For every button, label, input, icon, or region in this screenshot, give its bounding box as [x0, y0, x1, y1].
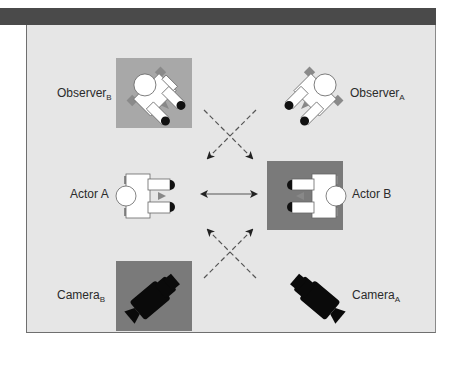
label-actor-b: Actor B	[352, 187, 391, 201]
dashed-arrow-observer-b-to-actor-b	[204, 110, 252, 158]
label-observer-a: ObserverA	[350, 86, 405, 102]
label-observer-b: ObserverB	[57, 86, 112, 102]
dashed-arrow-observer-a-to-actor-a	[208, 110, 256, 158]
dashed-arrow-camera-a-to-actor-a	[208, 230, 256, 278]
observer-a-figure-icon	[277, 60, 350, 133]
label-camera-a: CameraA	[352, 288, 400, 304]
label-camera-b: CameraB	[57, 288, 105, 304]
camera-a-icon	[287, 270, 348, 327]
actor-a-figure-icon	[116, 174, 175, 218]
label-actor-a: Actor A	[70, 187, 109, 201]
dashed-arrow-camera-b-to-actor-b	[204, 230, 252, 278]
